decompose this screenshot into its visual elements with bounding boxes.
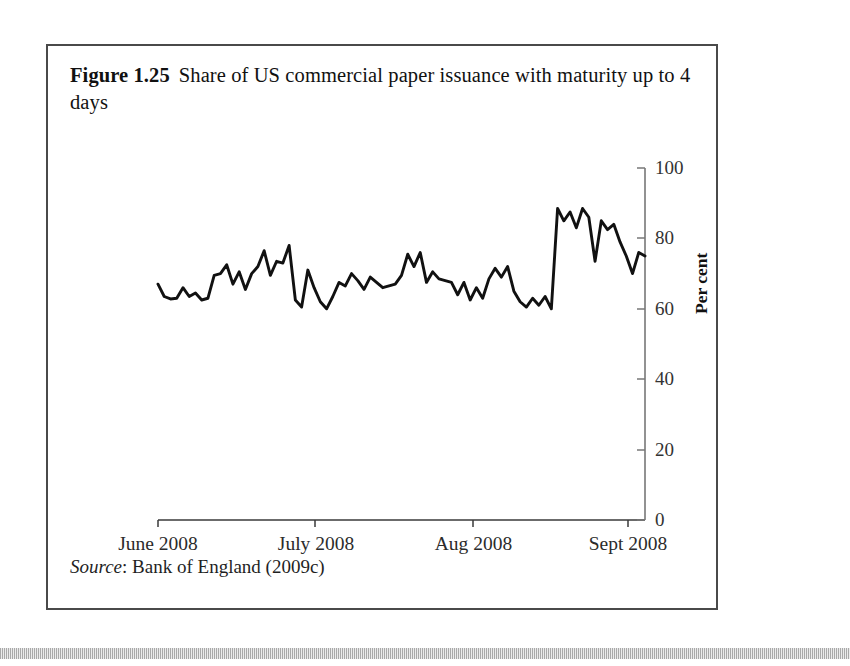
- y-tick-label-40: 40: [655, 368, 674, 390]
- y-tick-label-20: 20: [655, 439, 674, 461]
- chart-plot-area: 100 80 60 40 20 0 June 2008 July 2008 Au…: [48, 46, 720, 612]
- y-tick-label-60: 60: [655, 298, 674, 320]
- y-tick-label-0: 0: [655, 509, 665, 531]
- y-tick-label-80: 80: [655, 227, 674, 249]
- x-tick-label-sept: Sept 2008: [564, 533, 692, 555]
- line-chart-svg: [48, 46, 720, 612]
- x-tick-label-aug: Aug 2008: [416, 533, 531, 555]
- y-tick-label-100: 100: [655, 157, 684, 179]
- source-label: Source: [70, 556, 122, 577]
- x-tick-label-july: July 2008: [256, 533, 376, 555]
- x-tick-label-june: June 2008: [98, 533, 218, 555]
- y-axis-title: Per cent: [691, 253, 712, 314]
- bottom-decorative-band: [0, 648, 850, 659]
- data-series-line: [158, 208, 645, 308]
- source-line: Source: Bank of England (2009c): [70, 556, 325, 578]
- figure-box: Figure 1.25Share of US commercial paper …: [46, 44, 718, 610]
- source-value: : Bank of England (2009c): [122, 556, 325, 577]
